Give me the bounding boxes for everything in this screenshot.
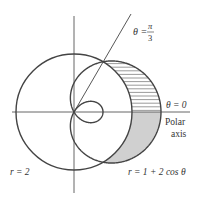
polar-axis-word1: Polar (165, 117, 186, 127)
ray-label-pi: π (148, 21, 153, 31)
circle-equation-label: r = 2 (10, 167, 30, 177)
polar-axis-theta-label: θ = 0 (166, 100, 187, 110)
ray-label-3: 3 (148, 33, 152, 43)
ray-label-theta: θ = (133, 26, 147, 37)
hatched-region (90, 60, 170, 110)
limacon-equation-label: r = 1 + 2 cos θ (128, 167, 186, 177)
ray-theta-pi-over-3 (74, 14, 131, 112)
polar-diagram: θ = π 3 θ = 0 Polar axis r = 2 r = 1 + 2… (0, 0, 203, 204)
polar-axis-word2: axis (171, 129, 187, 139)
